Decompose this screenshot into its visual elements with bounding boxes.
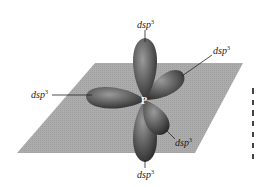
dsp3-hybrid-orbitals-diagram: P dsp3 dsp3 dsp3 dsp3 dsp3 bbox=[0, 0, 260, 187]
equatorial-plane bbox=[17, 63, 243, 153]
center-atom-label: P bbox=[141, 95, 147, 106]
label-upper-right: dsp3 bbox=[213, 45, 230, 56]
label-bottom: dsp3 bbox=[137, 169, 154, 180]
caption-fragment bbox=[252, 88, 254, 159]
label-top: dsp3 bbox=[137, 19, 154, 30]
label-left: dsp3 bbox=[31, 89, 48, 100]
